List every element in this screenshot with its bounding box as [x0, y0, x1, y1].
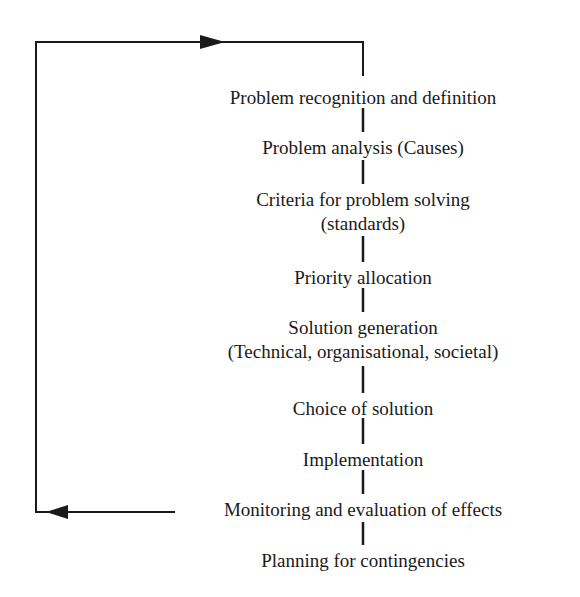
step-priority-allocation: Priority allocation — [294, 266, 432, 290]
step-criteria: Criteria for problem solving(standards) — [256, 188, 470, 236]
arrow-right-icon — [200, 35, 225, 49]
step-planning-contingencies: Planning for contingencies — [261, 549, 465, 573]
step-label: Problem recognition and definition — [230, 86, 496, 110]
step-label: Implementation — [303, 448, 423, 472]
step-problem-analysis: Problem analysis (Causes) — [262, 136, 464, 160]
step-label: Choice of solution — [293, 397, 433, 421]
arrow-left-icon — [46, 505, 68, 519]
step-label: Priority allocation — [294, 266, 432, 290]
step-label: Problem analysis (Causes) — [262, 136, 464, 160]
step-sublabel: (standards) — [256, 212, 470, 236]
step-monitoring: Monitoring and evaluation of effects — [222, 498, 504, 522]
step-label: Criteria for problem solving — [256, 188, 470, 212]
step-label: Monitoring and evaluation of effects — [224, 498, 502, 522]
step-sublabel: (Technical, organisational, societal) — [228, 340, 499, 364]
step-label: Solution generation — [228, 316, 499, 340]
step-solution-generation: Solution generation(Technical, organisat… — [228, 316, 499, 364]
step-label: Planning for contingencies — [261, 549, 465, 573]
step-problem-recognition: Problem recognition and definition — [230, 86, 496, 110]
step-choice-of-solution: Choice of solution — [293, 397, 433, 421]
step-implementation: Implementation — [303, 448, 423, 472]
